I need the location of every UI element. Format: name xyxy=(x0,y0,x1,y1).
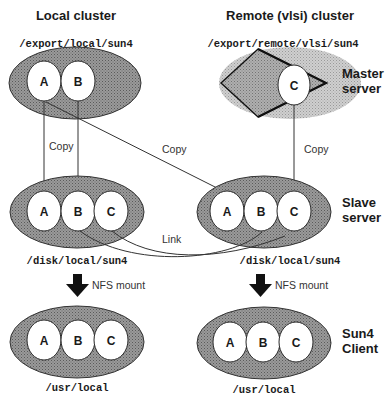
master-server-label-1: Master xyxy=(342,66,384,81)
node-b: B xyxy=(257,205,266,219)
local-slave-server: A B C xyxy=(10,176,144,248)
master-server-label-2: server xyxy=(342,81,381,96)
node-a: A xyxy=(226,336,235,350)
remote-master-server: C xyxy=(219,47,361,119)
slave-server-label-2: server xyxy=(342,210,381,225)
client-label-2: Client xyxy=(342,341,379,356)
node-b: B xyxy=(259,336,268,350)
remote-slave-server: A B C xyxy=(197,176,331,248)
nfs-label-local: NFS mount xyxy=(92,279,145,291)
copy-label-remote: Copy xyxy=(304,143,329,155)
node-c: C xyxy=(107,205,116,219)
nfs-arrow-remote xyxy=(249,274,272,297)
node-c: C xyxy=(290,205,299,219)
local-slave-path: /disk/local/sun4 xyxy=(27,255,128,267)
local-client-path: /usr/local xyxy=(45,382,108,394)
distribution-diagram: Local cluster Remote (vlsi) cluster /exp… xyxy=(0,0,389,403)
client-label-1: Sun4 xyxy=(342,326,375,341)
node-b: B xyxy=(74,334,83,348)
node-a: A xyxy=(40,334,49,348)
remote-cluster-title: Remote (vlsi) cluster xyxy=(226,8,354,23)
remote-client-path: /usr/local xyxy=(232,384,295,396)
copy-label-local: Copy xyxy=(49,140,74,152)
remote-client: A B C xyxy=(197,307,331,379)
local-cluster-title: Local cluster xyxy=(36,8,116,23)
node-b: B xyxy=(74,75,83,89)
node-a: A xyxy=(223,205,232,219)
node-c: C xyxy=(292,336,301,350)
node-c: C xyxy=(107,334,116,348)
copy-label-cross: Copy xyxy=(162,143,187,155)
local-client: A B C xyxy=(10,306,144,378)
node-a: A xyxy=(40,205,49,219)
node-b: B xyxy=(74,205,83,219)
slave-server-label-1: Slave xyxy=(342,195,376,210)
node-c: C xyxy=(290,79,299,93)
nfs-label-remote: NFS mount xyxy=(275,279,328,291)
node-a: A xyxy=(40,75,49,89)
nfs-arrow-local xyxy=(66,274,89,297)
local-master-server: A B xyxy=(9,47,141,119)
remote-slave-path: /disk/local/sun4 xyxy=(240,255,341,267)
link-label: Link xyxy=(162,233,182,245)
